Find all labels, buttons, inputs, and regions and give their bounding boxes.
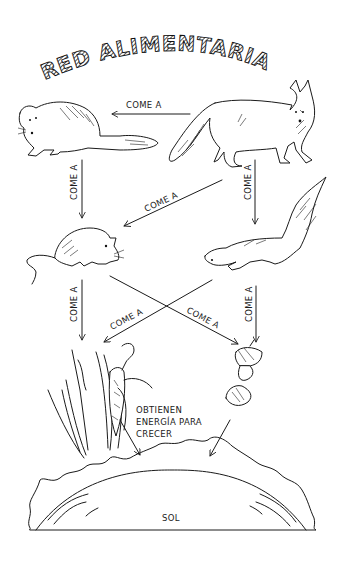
arrow-sun-acorns: [210, 420, 230, 456]
title: RED ALIMENTARIA: [37, 32, 274, 85]
label-mouse-acorns: COME A: [185, 305, 221, 331]
label-squirrel-acorns: COME A: [244, 286, 254, 322]
svg-text:RED ALIMENTARIA: RED ALIMENTARIA: [37, 32, 274, 85]
sun-illustration: SOL: [29, 437, 316, 530]
arrow-mouse-acorns: [110, 276, 238, 344]
squirrel-illustration: [205, 177, 326, 270]
label-mouse-plants: COME A: [69, 286, 79, 322]
label-fox-mouse: COME A: [143, 190, 180, 214]
energy-note-line1: OBTIENEN: [136, 405, 182, 415]
label-weasel-mouse: COME A: [69, 164, 79, 200]
energy-note-line2: ENERGÍA PARA: [136, 416, 202, 427]
label-fox-weasel: COME A: [126, 100, 162, 110]
energy-note-line3: CRECER: [136, 429, 172, 439]
plants-illustration: [48, 343, 152, 458]
label-squirrel-plants: COME A: [108, 306, 144, 332]
weasel-illustration: [18, 102, 158, 156]
sun-label: SOL: [162, 513, 180, 523]
mouse-illustration: [27, 228, 124, 284]
energy-note: OBTIENEN ENERGÍA PARA CRECER: [136, 405, 202, 439]
label-fox-squirrel: COME A: [243, 164, 253, 200]
food-web-diagram: RED ALIMENTARIA: [0, 0, 342, 565]
acorns-illustration: [226, 340, 262, 405]
arrow-fox-mouse: [124, 180, 222, 226]
fox-illustration: [169, 80, 314, 167]
title-text: RED ALIMENTARIA: [37, 32, 274, 85]
